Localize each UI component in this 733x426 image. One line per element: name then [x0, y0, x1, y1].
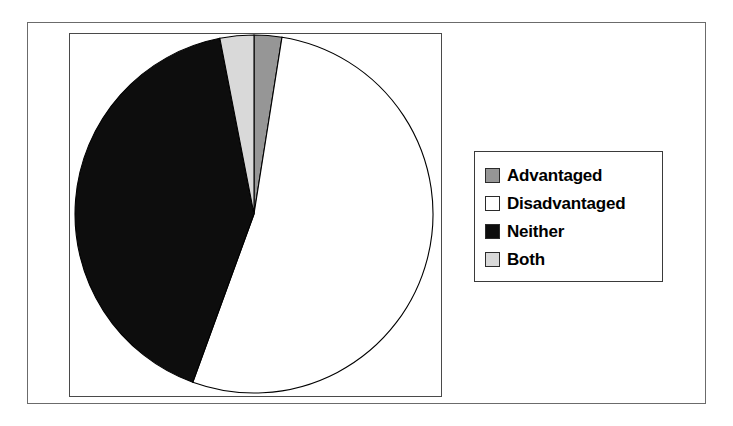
legend-item-advantaged: Advantaged: [485, 161, 662, 189]
legend-item-both: Both: [485, 245, 662, 273]
legend-swatch-disadvantaged: [485, 196, 500, 211]
legend-item-neither: Neither: [485, 217, 662, 245]
legend-swatch-neither: [485, 224, 500, 239]
pie-chart-screenshot: Advantaged Disadvantaged Neither Both: [0, 0, 733, 426]
legend-item-disadvantaged: Disadvantaged: [485, 189, 662, 217]
pie-chart: [60, 20, 460, 420]
legend-swatch-both: [485, 252, 500, 267]
legend-label-disadvantaged: Disadvantaged: [507, 195, 625, 212]
legend-swatch-advantaged: [485, 168, 500, 183]
legend-label-advantaged: Advantaged: [507, 167, 602, 184]
pie-slice-group: [75, 35, 433, 393]
legend-label-both: Both: [507, 251, 545, 268]
chart-legend: Advantaged Disadvantaged Neither Both: [474, 151, 663, 282]
legend-label-neither: Neither: [507, 223, 564, 240]
